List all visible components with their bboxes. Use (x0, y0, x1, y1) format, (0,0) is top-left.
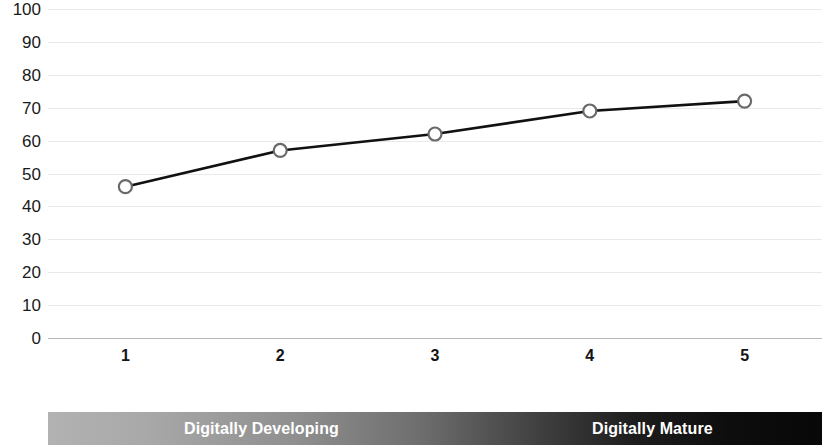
data-point-marker (583, 104, 596, 117)
series-line-layer (0, 0, 832, 400)
series-line (125, 101, 744, 187)
data-point-marker (274, 144, 287, 157)
data-point-marker (119, 180, 132, 193)
x-tick-label: 3 (431, 348, 440, 364)
x-tick-label: 1 (121, 348, 130, 364)
data-point-marker (429, 128, 442, 141)
x-tick-label: 4 (585, 348, 594, 364)
data-point-marker (738, 95, 751, 108)
x-tick-label: 2 (276, 348, 285, 364)
x-tick-label: 5 (740, 348, 749, 364)
x-axis: 12345 (48, 348, 822, 378)
line-chart: 1009080706050403020100 12345 (0, 0, 832, 400)
maturity-spectrum-bar: Digitally Developing Digitally Mature (48, 412, 822, 445)
spectrum-label-digitally-developing: Digitally Developing (184, 420, 339, 438)
spectrum-label-digitally-mature: Digitally Mature (592, 420, 713, 438)
